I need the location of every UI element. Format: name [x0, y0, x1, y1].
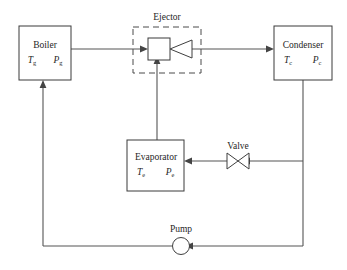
condenser-temperature-subscript: c [289, 59, 292, 66]
condenser-box [274, 26, 332, 80]
condenser-label: Condenser [283, 40, 324, 50]
valve-triangle-left [227, 153, 238, 169]
arrow-valve-to-evaporator [184, 158, 192, 165]
ejector-diffuser-triangle [170, 40, 192, 58]
evaporator-temperature-subscript: e [142, 171, 145, 178]
valve-symbol [227, 153, 249, 169]
valve-triangle-right [238, 153, 249, 169]
boiler-box [19, 26, 71, 80]
pump-symbol [173, 238, 190, 255]
valve-label: Valve [227, 141, 249, 151]
diagram-canvas: Ejector Boiler Tg Pg Condenser Tc Pc Eva… [0, 0, 347, 270]
ejector-cycle-diagram: Ejector Boiler Tg Pg Condenser Tc Pc Eva… [0, 0, 347, 270]
evaporator-pressure-subscript: e [171, 171, 174, 178]
ejector-mixing-chamber [148, 38, 170, 60]
arrow-ejector-to-condenser [266, 46, 274, 53]
arrow-boiler-to-ejector [140, 46, 148, 53]
boiler-label: Boiler [33, 40, 58, 50]
evaporator-box [127, 140, 184, 191]
pump-label: Pump [170, 224, 192, 234]
arrow-pump-to-boiler [40, 80, 47, 88]
condenser-pressure-subscript: c [318, 59, 321, 66]
evaporator-label: Evaporator [135, 152, 178, 162]
ejector-label: Ejector [153, 12, 181, 22]
